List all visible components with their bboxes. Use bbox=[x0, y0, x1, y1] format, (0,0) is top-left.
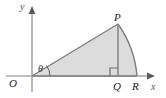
label-axis-x: x bbox=[151, 82, 155, 92]
label-axis-y: y bbox=[20, 2, 24, 12]
geometry-figure: P O Q R x y θ bbox=[0, 0, 166, 98]
figure-canvas bbox=[0, 0, 166, 98]
y-axis-arrowhead bbox=[29, 6, 36, 14]
x-axis-arrowhead bbox=[147, 73, 155, 80]
label-angle-theta: θ bbox=[38, 64, 43, 74]
label-point-o: O bbox=[9, 78, 17, 89]
label-point-p: P bbox=[114, 12, 121, 23]
label-point-q: Q bbox=[113, 81, 121, 92]
label-point-r: R bbox=[132, 81, 139, 92]
